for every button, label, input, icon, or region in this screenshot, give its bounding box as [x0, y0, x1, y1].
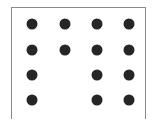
dot — [124, 70, 135, 81]
dot — [92, 70, 103, 81]
dot — [27, 45, 38, 56]
dot — [124, 95, 135, 106]
dot — [27, 95, 38, 106]
dot — [92, 19, 103, 30]
dot — [60, 45, 71, 56]
dot — [27, 70, 38, 81]
dot — [27, 19, 38, 30]
dot — [92, 45, 103, 56]
dot — [124, 45, 135, 56]
dot — [92, 95, 103, 106]
dot — [124, 19, 135, 30]
dot — [60, 19, 71, 30]
